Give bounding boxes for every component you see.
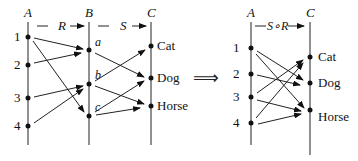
edge-R-1-a	[34, 38, 83, 49]
label-C-horse-right: Horse	[318, 109, 349, 124]
node-C-dog-right	[308, 81, 313, 86]
node-B-b	[87, 82, 92, 87]
label-A-4: 4	[14, 118, 21, 133]
label-A-2-right: 2	[233, 66, 240, 81]
edge-R-3-b	[34, 86, 83, 97]
right-diagram: A C S∘R 1 2 3 4 Cat Dog Horse	[233, 5, 349, 155]
node-A-1	[26, 35, 31, 40]
set-C-label-right: C	[306, 5, 315, 20]
label-C-dog-right: Dog	[318, 75, 341, 90]
node-C-horse	[149, 104, 154, 109]
node-C-cat-right	[308, 55, 313, 60]
node-A-1-right	[249, 46, 254, 51]
set-B-label: B	[85, 5, 93, 20]
node-B-c	[87, 114, 92, 119]
set-A-label-right: A	[246, 5, 255, 20]
implies-icon: ⟹	[193, 67, 219, 88]
left-diagram: A B C R S 1 2 3 4 a b c Cat Dog Horse	[14, 5, 188, 145]
label-C-horse: Horse	[157, 98, 188, 113]
edge-S-a-dog	[95, 53, 144, 77]
label-A-1-right: 1	[233, 40, 240, 55]
relation-R-label: R	[57, 18, 66, 33]
set-C-label: C	[147, 5, 156, 20]
edge-R-1-c	[33, 41, 84, 112]
edge-S-c-horse	[96, 108, 140, 115]
label-A-1: 1	[14, 29, 21, 44]
edge-SR-2-dog	[257, 75, 300, 85]
set-A-label: A	[23, 5, 32, 20]
node-A-4	[26, 124, 31, 129]
relation-S-label: S	[120, 18, 127, 33]
edge-S-c-dog	[95, 81, 144, 112]
label-C-cat: Cat	[157, 38, 175, 53]
edge-S-b-cat	[95, 50, 145, 81]
edge-SR-4-horse	[258, 114, 301, 124]
node-A-2-right	[249, 72, 254, 77]
node-C-cat	[149, 44, 154, 49]
relation-SR-label: S∘R	[267, 19, 289, 33]
node-A-2	[26, 63, 31, 68]
edge-S-b-horse	[95, 86, 144, 104]
edge-R-2-a	[34, 53, 81, 63]
node-B-a	[87, 48, 92, 53]
edge-SR-1-horse	[256, 54, 304, 108]
label-B-a: a	[95, 35, 101, 49]
label-C-cat-right: Cat	[318, 49, 336, 64]
label-A-3-right: 3	[233, 89, 240, 104]
node-A-4-right	[249, 121, 254, 126]
label-A-2: 2	[14, 57, 21, 72]
edge-R-4-b	[34, 89, 83, 123]
label-A-3: 3	[14, 90, 21, 105]
node-A-3	[26, 96, 31, 101]
relation-composition-diagram: A B C R S 1 2 3 4 a b c Cat Dog Horse	[0, 0, 358, 161]
label-C-dog: Dog	[157, 70, 180, 85]
node-C-dog	[149, 76, 154, 81]
node-C-horse-right	[308, 108, 313, 113]
label-A-4-right: 4	[233, 115, 240, 130]
node-A-3-right	[249, 95, 254, 100]
